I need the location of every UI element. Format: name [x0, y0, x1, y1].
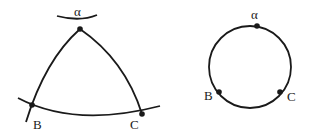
label-b-right: B [204, 88, 213, 103]
arc-alpha-to-b [26, 29, 80, 122]
label-b-left: B [33, 117, 42, 132]
circle-vertex-alpha-dot [254, 23, 260, 29]
vertex-b-dot [29, 102, 35, 108]
label-c-right: C [287, 89, 296, 104]
vertex-c-dot [139, 111, 145, 117]
arc-alpha-to-c [80, 29, 142, 114]
label-alpha-right: α [251, 7, 258, 22]
curved-triangle-figure [18, 15, 160, 122]
diagram-canvas: α B C α B C [0, 0, 310, 136]
label-alpha-left: α [74, 4, 81, 19]
vertex-alpha-dot [77, 26, 83, 32]
circle-figure [209, 26, 291, 108]
label-c-left: C [130, 117, 139, 132]
circle-vertex-c-dot [277, 89, 283, 95]
circle-vertex-b-dot [216, 89, 222, 95]
